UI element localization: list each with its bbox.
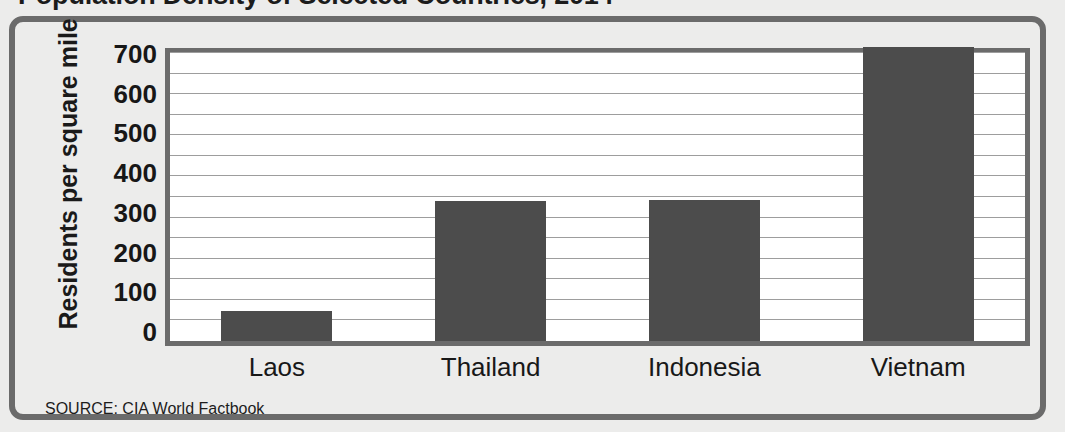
y-axis-tick-600: 600 [71, 81, 157, 107]
chart-frame: Residents per square mile 70060050040030… [9, 16, 1046, 420]
y-axis-tick-200: 200 [71, 240, 157, 266]
x-label-indonesia: Indonesia [648, 352, 761, 383]
x-label-laos: Laos [249, 352, 305, 383]
y-axis-tick-300: 300 [71, 200, 157, 226]
y-axis-tick-labels: 7006005004003002001000 [71, 44, 157, 346]
y-axis-tick-0: 0 [71, 319, 157, 345]
bar-vietnam [863, 47, 974, 341]
bar-thailand [435, 201, 546, 341]
x-axis-category-labels: LaosThailandIndonesiaVietnam [165, 352, 1030, 392]
bar-laos [221, 311, 332, 341]
chart-title: Population Density of Selected Countries… [18, 0, 613, 10]
bar-indonesia [649, 200, 760, 341]
y-axis-tick-700: 700 [71, 41, 157, 67]
y-axis-tick-100: 100 [71, 279, 157, 305]
plot-area [165, 48, 1030, 346]
source-note: SOURCE: CIA World Factbook [45, 400, 264, 418]
y-axis-tick-500: 500 [71, 120, 157, 146]
bars-layer [170, 53, 1025, 341]
y-axis-tick-400: 400 [71, 160, 157, 186]
x-label-vietnam: Vietnam [871, 352, 966, 383]
x-label-thailand: Thailand [441, 352, 541, 383]
